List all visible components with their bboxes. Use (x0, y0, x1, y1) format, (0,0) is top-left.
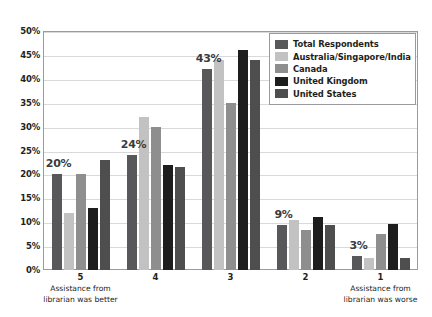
bar (277, 225, 287, 270)
bar (175, 167, 185, 270)
bar (127, 155, 137, 270)
data-label: 24% (121, 138, 146, 151)
legend-label: United Kingdom (293, 76, 368, 86)
x-axis-group-label: 4 (153, 272, 159, 283)
x-axis-group-label: 5Assistance fromlibrarian was better (43, 272, 117, 304)
legend-swatch-icon (275, 89, 288, 98)
bar (301, 230, 311, 270)
data-label: 43% (196, 52, 221, 65)
x-axis-tick-label: 5 (43, 272, 117, 283)
x-axis-group-label: 3 (228, 272, 234, 283)
x-axis-group-label: 1Assistance fromlibrarian was worse (344, 272, 418, 304)
y-axis-tick-label: 40% (6, 74, 40, 84)
bar (202, 69, 212, 270)
bar (289, 220, 299, 270)
bar (250, 60, 260, 270)
legend-item: Australia/Singapore/India (275, 50, 410, 62)
data-label: 20% (46, 157, 71, 170)
y-axis-tick-label: 45% (6, 50, 40, 60)
legend-label: Canada (293, 64, 327, 74)
legend-label: Australia/Singapore/India (293, 52, 411, 62)
bar (376, 234, 386, 270)
x-axis-caption-line: Assistance from (43, 284, 117, 294)
legend-label: United States (293, 89, 356, 99)
data-label: 3% (349, 239, 367, 252)
data-label: 9% (274, 208, 292, 221)
bar (400, 258, 410, 270)
bar (88, 208, 98, 270)
bar-group (52, 31, 110, 270)
bar (151, 127, 161, 270)
bar (352, 256, 362, 270)
bar (313, 217, 323, 270)
y-axis-tick-label: 30% (6, 122, 40, 132)
y-axis-tick-label: 15% (6, 193, 40, 203)
x-axis-tick-label: 3 (228, 272, 234, 283)
legend-label: Total Respondents (293, 39, 379, 49)
x-axis-caption-line: Assistance from (344, 284, 418, 294)
legend-item: United Kingdom (275, 75, 410, 87)
bar (163, 165, 173, 270)
bar (238, 50, 248, 270)
bar (226, 103, 236, 270)
legend-swatch-icon (275, 52, 288, 61)
legend-item: Canada (275, 63, 410, 75)
x-axis: 5Assistance fromlibrarian was better4321… (43, 272, 418, 317)
x-axis-tick-label: 1 (344, 272, 418, 283)
legend: Total RespondentsAustralia/Singapore/Ind… (269, 33, 416, 105)
y-axis-tick-label: 35% (6, 98, 40, 108)
x-axis-tick-label: 2 (303, 272, 309, 283)
bar (364, 258, 374, 270)
y-axis-tick-label: 25% (6, 146, 40, 156)
bar (64, 213, 74, 270)
y-axis-tick-label: 50% (6, 26, 40, 36)
y-axis-tick-label: 10% (6, 217, 40, 227)
x-axis-group-label: 2 (303, 272, 309, 283)
x-axis-caption-line: librarian was better (43, 295, 117, 305)
x-axis-tick-label: 4 (153, 272, 159, 283)
legend-item: United States (275, 88, 410, 100)
legend-swatch-icon (275, 40, 288, 49)
legend-item: Total Respondents (275, 38, 410, 50)
bar (388, 224, 398, 270)
legend-swatch-icon (275, 77, 288, 86)
y-axis-tick-label: 0% (6, 265, 40, 275)
bar-group (202, 31, 260, 270)
y-axis: 50%45%40%35%30%25%20%15%10%5%0% (2, 31, 40, 270)
bar (214, 60, 224, 270)
legend-swatch-icon (275, 64, 288, 73)
y-axis-tick-label: 5% (6, 241, 40, 251)
bar (76, 174, 86, 270)
bar-chart: 50%45%40%35%30%25%20%15%10%5%0% 20%24%43… (0, 0, 432, 317)
bar (52, 174, 62, 270)
bar (325, 225, 335, 270)
y-axis-tick-label: 20% (6, 169, 40, 179)
x-axis-caption-line: librarian was worse (344, 295, 418, 305)
bar (100, 160, 110, 270)
